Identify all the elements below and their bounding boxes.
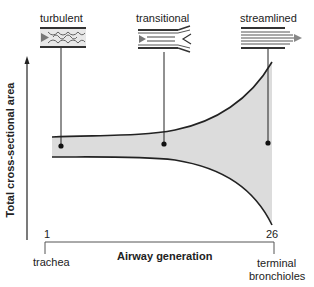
transitional-flow-icon — [138, 26, 191, 52]
x-end-tick: 26 — [266, 228, 278, 241]
turbulent-flow-icon — [40, 28, 86, 47]
streamlined-flow-icon — [241, 28, 302, 48]
flow-label-turbulent: turbulent — [40, 12, 83, 25]
x-start-tick: 1 — [44, 228, 50, 241]
y-axis-label: Total cross-sectional area — [4, 70, 16, 230]
flow-label-streamlined: streamlined — [240, 12, 297, 25]
x-axis-label: Airway generation — [117, 250, 212, 263]
flow-label-transitional: transitional — [136, 12, 189, 25]
y-axis-arrow — [25, 56, 30, 240]
x-end-name-line2: bronchioles — [249, 270, 305, 283]
x-start-name: trachea — [33, 256, 70, 269]
diagram-canvas — [0, 0, 314, 287]
x-end-name-line1: terminal — [257, 257, 296, 270]
leader-line-turbulent — [58, 48, 63, 149]
